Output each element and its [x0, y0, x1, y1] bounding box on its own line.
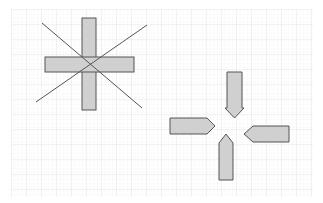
arrow-right-shape[interactable]: [170, 118, 215, 134]
drawing-canvas[interactable]: [0, 0, 323, 203]
arrow-down-shape[interactable]: [225, 72, 244, 118]
arrow-up-shape[interactable]: [219, 134, 233, 180]
grid-background: [11, 9, 313, 197]
arrow-left-shape[interactable]: [244, 126, 289, 142]
